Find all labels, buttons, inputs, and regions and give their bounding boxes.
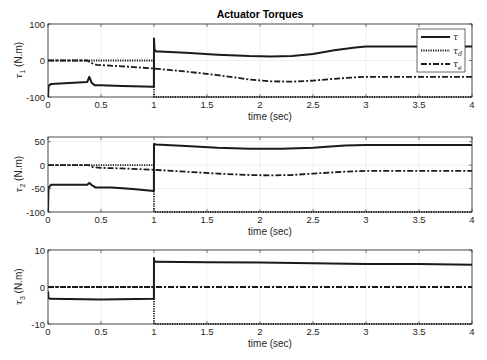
- subplot-3: 00.511.522.533.54-10010time (sec)τ3 (N.m…: [13, 245, 475, 350]
- x-tick-label: 1: [151, 214, 156, 225]
- x-tick-label: 1: [151, 99, 156, 110]
- x-tick-label: 2.5: [306, 99, 319, 110]
- x-tick-label: 0.5: [94, 214, 107, 225]
- x-tick-label: 2.5: [306, 214, 319, 225]
- subplot-1: 00.511.522.533.54-1000100time (sec)τ1 (N…: [13, 19, 475, 123]
- x-tick-label: 4: [469, 214, 474, 225]
- x-tick-label: 1.5: [200, 214, 213, 225]
- subplot-2: 00.511.522.533.54-100-50050time (sec)τ2 …: [13, 136, 475, 237]
- x-tick-label: 1.5: [200, 326, 213, 337]
- y-tick-label: -50: [31, 183, 45, 194]
- chart-title: Actuator Torques: [217, 8, 304, 20]
- x-tick-label: 2: [257, 99, 262, 110]
- y-tick-label: -10: [31, 319, 45, 330]
- y-label-unit: (N.m): [13, 156, 24, 184]
- x-tick-label: 3.5: [412, 99, 425, 110]
- y-tick-label: 0: [40, 160, 45, 171]
- x-tick-label: 2: [257, 326, 262, 337]
- x-tick-label: 3.5: [412, 326, 425, 337]
- x-tick-label: 1.5: [200, 99, 213, 110]
- x-tick-label: 3: [363, 326, 368, 337]
- x-tick-label: 0: [45, 326, 50, 337]
- x-tick-label: 0: [45, 99, 50, 110]
- x-tick-label: 2: [257, 214, 262, 225]
- y-tick-label: -100: [26, 92, 45, 103]
- y-tick-label: 10: [34, 245, 45, 256]
- x-tick-label: 3: [363, 99, 368, 110]
- x-tick-label: 0: [45, 214, 50, 225]
- legend-label-subscript: d: [458, 50, 462, 58]
- x-tick-label: 3.5: [412, 214, 425, 225]
- x-tick-label: 4: [469, 99, 474, 110]
- y-axis-label: τ2 (N.m): [13, 156, 26, 193]
- legend: ττdτe: [417, 29, 465, 72]
- x-tick-label: 4: [469, 326, 474, 337]
- y-tick-label: -100: [26, 207, 45, 218]
- x-axis-label: time (sec): [248, 226, 292, 237]
- x-axis-label: time (sec): [248, 338, 292, 349]
- x-tick-label: 0.5: [94, 99, 107, 110]
- y-tick-label: 50: [34, 136, 45, 147]
- x-tick-label: 1: [151, 326, 156, 337]
- y-label-unit: (N.m): [13, 268, 24, 296]
- y-tick-label: 100: [29, 19, 45, 30]
- x-tick-label: 0.5: [94, 326, 107, 337]
- legend-label-subscript: e: [458, 64, 462, 72]
- y-label-unit: (N.m): [13, 42, 24, 70]
- x-axis-label: time (sec): [248, 111, 292, 122]
- y-tick-label: 0: [40, 282, 45, 293]
- y-tick-label: 0: [40, 55, 45, 66]
- x-tick-label: 2.5: [306, 326, 319, 337]
- actuator-torques-figure: Actuator Torques 00.511.522.533.54-10001…: [0, 0, 487, 360]
- y-axis-label: τ1 (N.m): [13, 42, 26, 79]
- y-axis-label: τ3 (N.m): [13, 268, 26, 305]
- x-tick-label: 3: [363, 214, 368, 225]
